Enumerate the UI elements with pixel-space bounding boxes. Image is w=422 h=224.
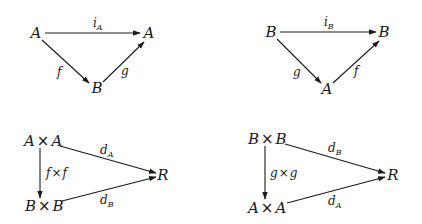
label-upper: dA — [100, 143, 114, 159]
arrow-lower — [287, 177, 385, 203]
node-bottom-product: B×B — [24, 197, 64, 215]
label-top: iB — [324, 15, 334, 31]
label-upper: dB — [328, 141, 342, 157]
label-left: g — [293, 65, 301, 79]
commutative-diagrams: A A B iA f g B B A iB g f A×A B×B R f×f … — [0, 0, 422, 224]
label-right: g — [121, 64, 129, 78]
diagram-triangle-ib: B B A iB g f — [264, 15, 389, 98]
node-bottom-product: A×A — [246, 199, 286, 217]
arrow-lower — [62, 177, 156, 201]
node-left: B — [264, 23, 276, 41]
diagram-triangle-ia: A A B iA f g — [29, 16, 155, 97]
label-vertical: f×f — [45, 166, 70, 180]
label-vertical: g×g — [270, 166, 298, 180]
label-top: iA — [93, 16, 103, 32]
node-top-product: B×B — [247, 130, 287, 148]
arrow-left — [42, 40, 89, 83]
node-top-product: A×A — [22, 132, 62, 150]
node-bottom: B — [90, 79, 102, 97]
node-right: B — [377, 23, 389, 41]
diagram-metric-b: B×B A×A R g×g dB dA — [246, 130, 399, 217]
label-left: f — [56, 65, 64, 79]
node-target: R — [386, 166, 398, 184]
label-right: f — [353, 64, 361, 78]
diagram-metric-a: A×A B×B R f×f dA dB — [22, 132, 169, 215]
node-bottom: A — [320, 80, 333, 98]
label-lower: dB — [100, 193, 114, 209]
node-target: R — [156, 166, 168, 184]
label-lower: dA — [328, 194, 342, 210]
node-left: A — [29, 24, 42, 42]
node-right: A — [142, 24, 155, 42]
